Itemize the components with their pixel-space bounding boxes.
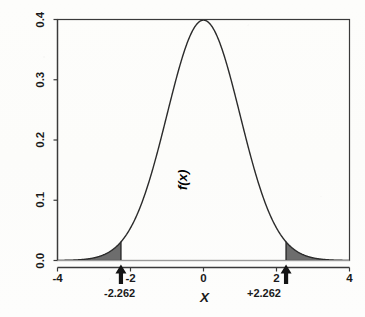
x-tick-label: 2 xyxy=(265,273,289,285)
y-tick-label: 0.1 xyxy=(35,189,47,211)
y-axis-title: f(x) xyxy=(175,0,190,190)
x-axis xyxy=(58,261,350,272)
shaded-tail-regions xyxy=(58,242,350,261)
critical-value-boundary-lines xyxy=(121,242,286,261)
y-tick-label: 0.2 xyxy=(35,129,47,151)
x-tick-label: 4 xyxy=(338,273,362,285)
normal-distribution-figure: 0.00.10.20.30.4 -4-2024 X f(x) -2.262 +2… xyxy=(0,0,365,317)
y-tick-label: 0.0 xyxy=(35,249,47,271)
density-curve xyxy=(58,20,350,260)
y-tick-label: 0.3 xyxy=(35,69,47,91)
frame-rect xyxy=(58,20,350,261)
x-tick-label: 0 xyxy=(192,273,216,285)
x-tick-label: -2 xyxy=(119,273,143,285)
plot-frame xyxy=(58,20,350,261)
left-critical-value-label: -2.262 xyxy=(104,288,135,299)
y-tick-label: 0.4 xyxy=(35,8,47,30)
y-axis xyxy=(54,20,58,261)
right-critical-value-label: +2.262 xyxy=(247,288,281,299)
x-tick-label: -4 xyxy=(46,273,70,285)
x-axis-title: X xyxy=(200,291,209,305)
